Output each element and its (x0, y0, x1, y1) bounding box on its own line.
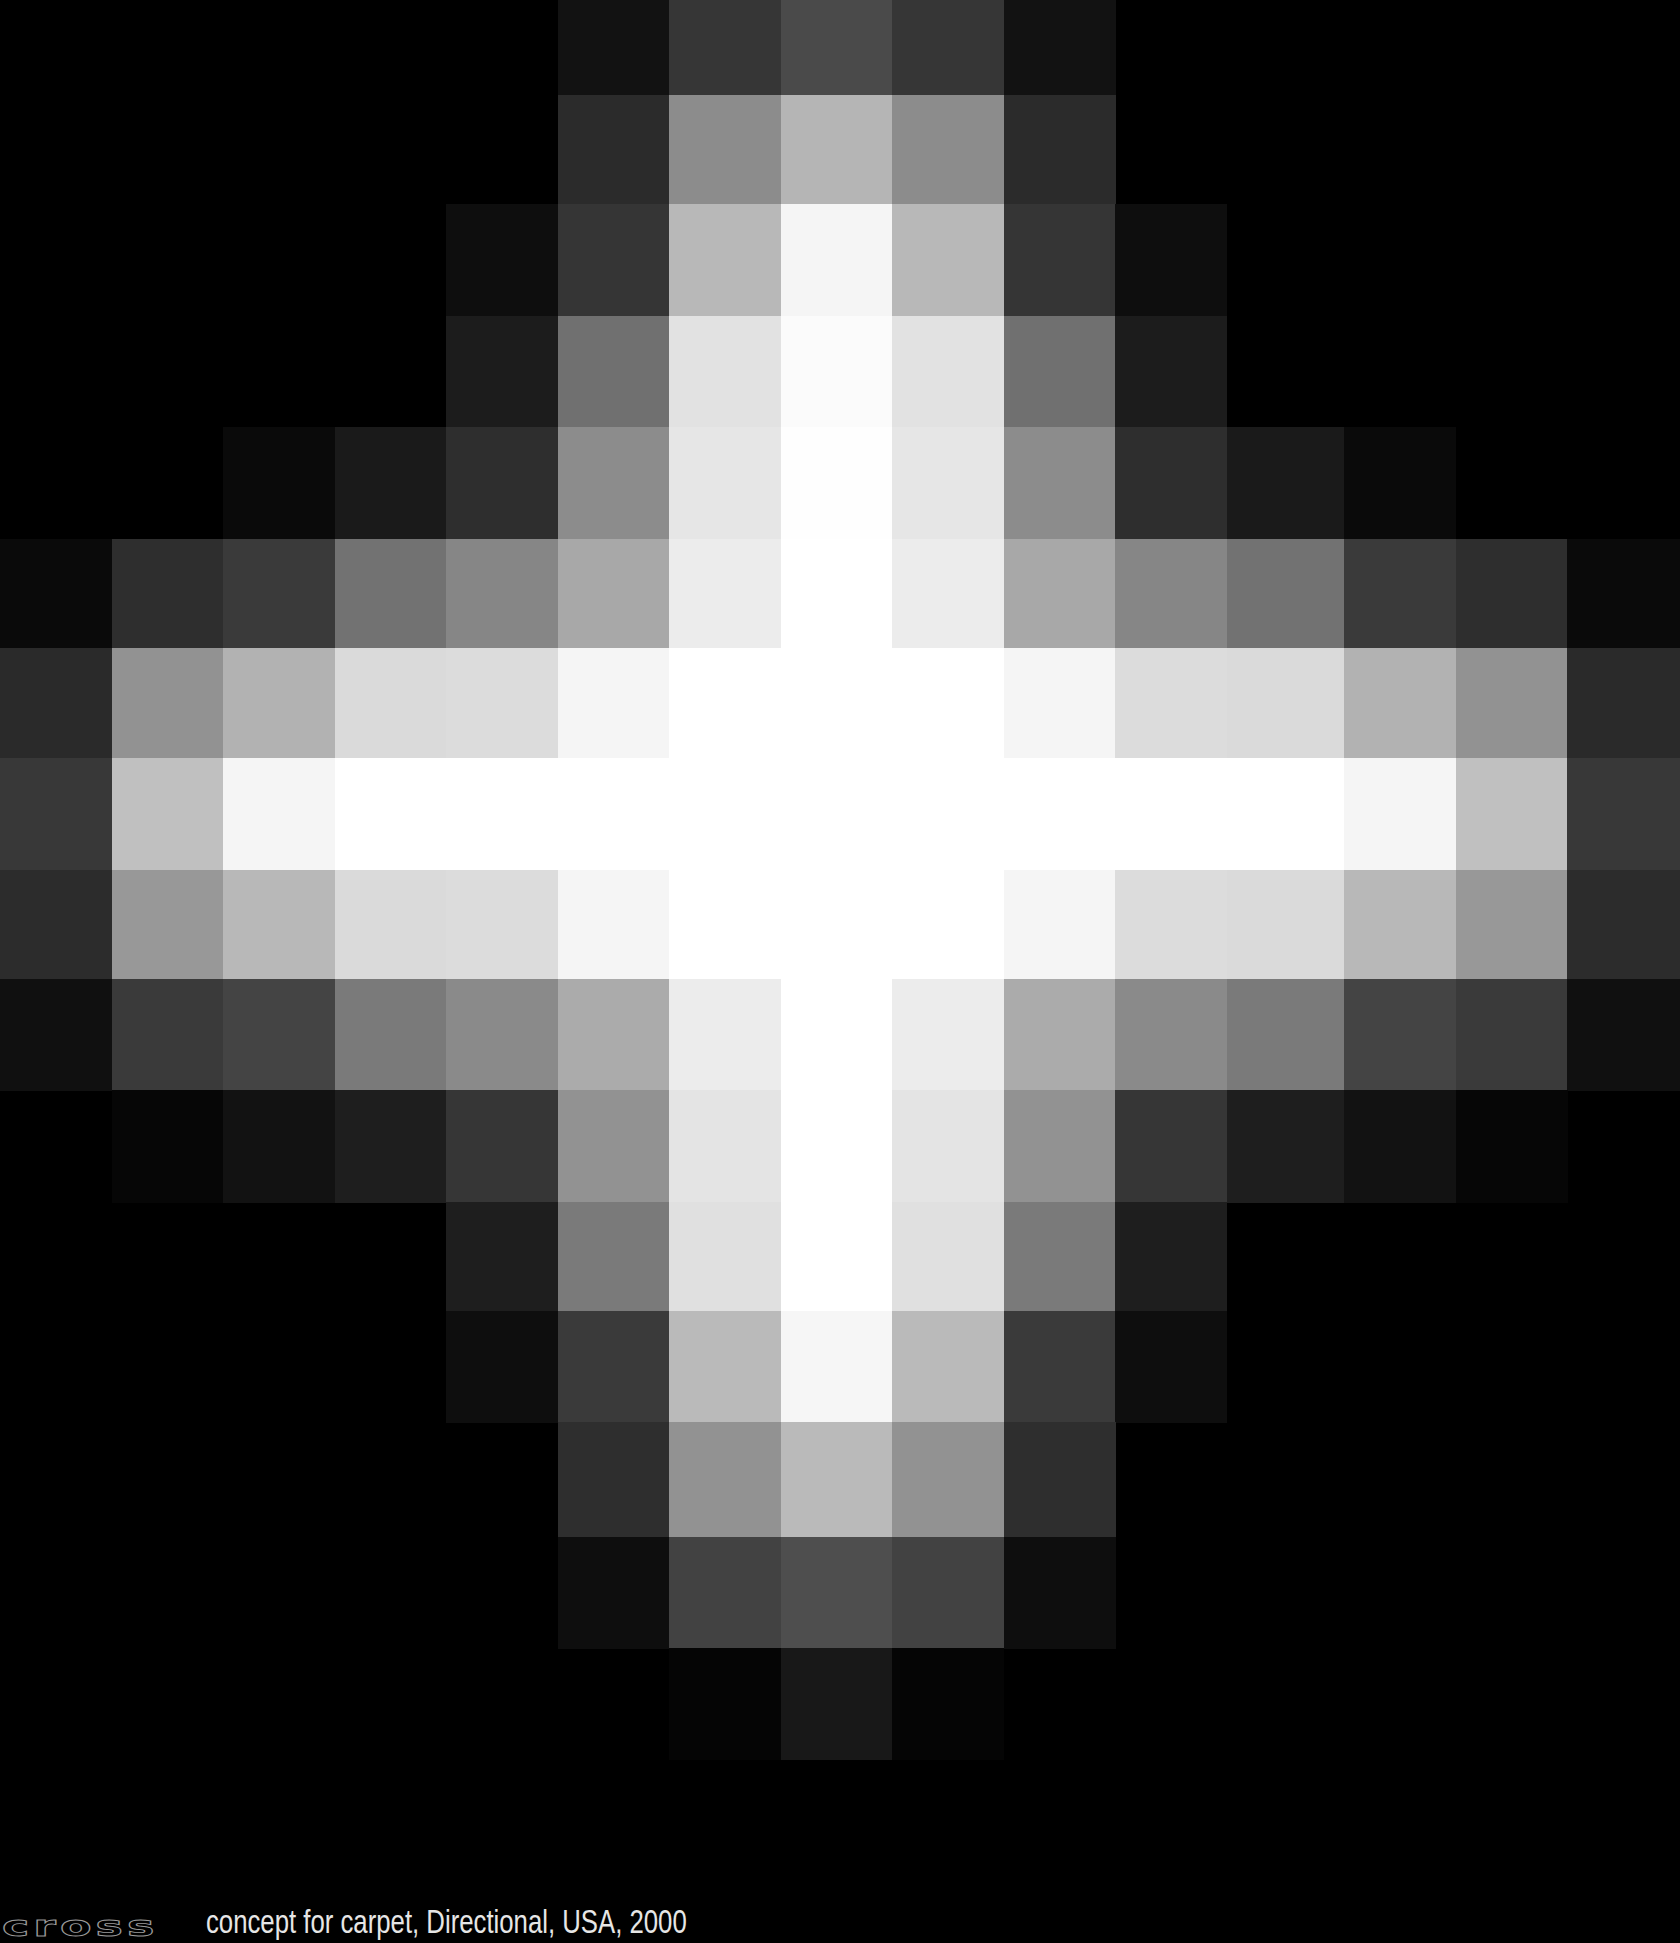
pattern-cell (1227, 758, 1345, 871)
pattern-cell (669, 316, 781, 428)
pattern-cell (1456, 648, 1568, 759)
pattern-cell (892, 648, 1004, 759)
pattern-cell (1456, 870, 1568, 980)
pattern-cell (446, 758, 558, 871)
pattern-cell (335, 648, 447, 759)
pattern-cell (1567, 979, 1680, 1091)
pattern-cell (892, 870, 1004, 980)
pattern-cell (892, 758, 1004, 871)
pattern-cell (781, 1090, 893, 1203)
pattern-cell (892, 1648, 1004, 1760)
pattern-cell (446, 427, 558, 540)
pattern-cell (446, 1090, 558, 1203)
pattern-cell (112, 539, 224, 649)
pattern-cell (1115, 1202, 1227, 1312)
pattern-cell (446, 316, 558, 428)
pattern-cell (781, 539, 893, 649)
pattern-cell (558, 1311, 670, 1423)
pattern-cell (0, 979, 112, 1091)
pattern-cell (781, 427, 893, 540)
pattern-cell (446, 1311, 558, 1423)
pattern-cell (781, 0, 893, 96)
pattern-cell (781, 1648, 893, 1760)
pattern-cell (223, 648, 335, 759)
pattern-cell (446, 870, 558, 980)
pattern-cell (112, 979, 224, 1091)
pattern-cell (669, 1090, 781, 1203)
pattern-cell (1567, 648, 1680, 759)
pattern-cell (781, 95, 893, 205)
pattern-cell (558, 758, 670, 871)
pattern-cell (1456, 979, 1568, 1091)
pattern-cell (223, 539, 335, 649)
pattern-cell (335, 758, 447, 871)
pattern-cell (446, 1202, 558, 1312)
pattern-cell (1004, 0, 1116, 96)
pattern-cell (558, 539, 670, 649)
pattern-cell (1115, 1090, 1227, 1203)
pattern-cell (112, 1090, 224, 1203)
pattern-cell (1115, 316, 1227, 428)
pattern-cell (558, 979, 670, 1091)
pattern-cell (1567, 870, 1680, 980)
pattern-cell (669, 648, 781, 759)
pattern-cell (1344, 648, 1456, 759)
pattern-cell (223, 979, 335, 1091)
pattern-cell (1004, 1311, 1116, 1423)
pattern-cell (781, 204, 893, 317)
pattern-cell (1004, 316, 1116, 428)
pattern-cell (892, 0, 1004, 96)
pattern-cell (558, 1537, 670, 1649)
pattern-cell (558, 1090, 670, 1203)
pattern-cell (669, 758, 781, 871)
pattern-cell (1567, 758, 1680, 871)
pattern-cell (892, 1311, 1004, 1423)
pattern-cell (1344, 870, 1456, 980)
pattern-cell (446, 204, 558, 317)
pattern-cell (558, 204, 670, 317)
pattern-cell (1344, 539, 1456, 649)
pattern-cell (781, 870, 893, 980)
pattern-cell (669, 1422, 781, 1538)
pattern-cell (1004, 204, 1116, 317)
pattern-cell (781, 758, 893, 871)
pattern-cell (781, 1311, 893, 1423)
pattern-cell (1004, 870, 1116, 980)
pattern-cell (1004, 427, 1116, 540)
pattern-cell (892, 427, 1004, 540)
pattern-cell (223, 870, 335, 980)
pattern-cell (1115, 427, 1227, 540)
pattern-cell (335, 539, 447, 649)
pattern-cell (1115, 979, 1227, 1091)
pattern-cell (1344, 758, 1456, 871)
pattern-cell (558, 1202, 670, 1312)
artwork-description: concept for carpet, Directional, USA, 20… (206, 1905, 687, 1940)
pattern-cell (1227, 427, 1345, 540)
pattern-cell (1004, 758, 1116, 871)
pattern-cell (558, 95, 670, 205)
pattern-cell (781, 316, 893, 428)
pattern-cell (669, 1537, 781, 1649)
pattern-cell (1115, 204, 1227, 317)
pattern-cell (781, 1202, 893, 1312)
pattern-cell (558, 1422, 670, 1538)
pattern-cell (446, 539, 558, 649)
pattern-cell (0, 648, 112, 759)
pattern-cell (892, 1537, 1004, 1649)
artwork-title: cross (2, 1911, 158, 1940)
pattern-cell (1227, 539, 1345, 649)
pattern-cell (781, 1537, 893, 1649)
pattern-cell (112, 758, 224, 871)
pattern-cell (558, 316, 670, 428)
pattern-cell (446, 648, 558, 759)
pattern-cell (223, 1090, 335, 1203)
cross-carpet-pattern (0, 0, 1679, 1760)
pattern-cell (669, 979, 781, 1091)
pattern-cell (0, 539, 112, 649)
pattern-cell (1115, 539, 1227, 649)
pattern-cell (1227, 979, 1345, 1091)
pattern-cell (335, 870, 447, 980)
pattern-cell (781, 1422, 893, 1538)
pattern-cell (892, 539, 1004, 649)
pattern-cell (669, 427, 781, 540)
